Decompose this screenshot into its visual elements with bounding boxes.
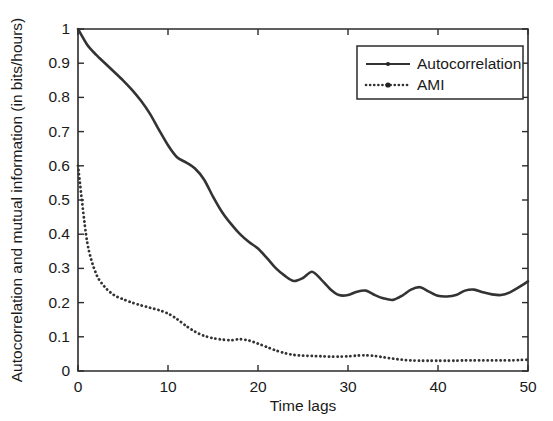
x-tick-label-40: 40 (429, 378, 447, 395)
x-tick-label-0: 0 (74, 378, 83, 395)
y-tick-label-1: 1 (61, 20, 70, 37)
legend-marker-dot-icon (386, 62, 390, 66)
x-tick-label-20: 20 (249, 378, 267, 395)
y-tick-label-0.3: 0.3 (48, 259, 70, 276)
legend-label-autocorrelation: Autocorrelation (417, 55, 521, 72)
y-tick-label-0.8: 0.8 (48, 88, 70, 105)
legend-marker-square-icon (385, 82, 390, 87)
autocorrelation-ami-line-chart: 01020304050 00.10.20.30.40.50.60.70.80.9… (0, 0, 553, 421)
y-tick-label-0.6: 0.6 (48, 157, 70, 174)
x-tick-label-10: 10 (159, 378, 177, 395)
x-tick-label-30: 30 (339, 378, 357, 395)
legend-label-ami: AMI (417, 76, 445, 93)
y-tick-label-0.2: 0.2 (48, 294, 70, 311)
y-tick-label-0.4: 0.4 (48, 225, 70, 242)
y-tick-label-0: 0 (61, 362, 70, 379)
y-tick-label-0.1: 0.1 (48, 328, 70, 345)
chart-legend: Autocorrelation AMI (357, 46, 523, 99)
y-tick-label-0.9: 0.9 (48, 54, 70, 71)
y-tick-label-0.5: 0.5 (48, 191, 70, 208)
chart-figure: 01020304050 00.10.20.30.40.50.60.70.80.9… (0, 0, 553, 421)
y-tick-label-0.7: 0.7 (48, 123, 70, 140)
x-axis-title: Time lags (270, 397, 337, 414)
x-tick-label-50: 50 (519, 378, 537, 395)
y-axis-title: Autocorrelation and mutual information (… (8, 18, 25, 382)
